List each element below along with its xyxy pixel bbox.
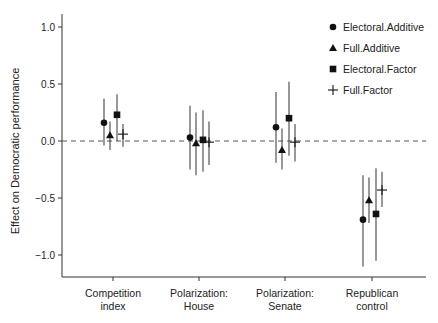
series-electoral-factor [114, 82, 380, 261]
series-full-additive [106, 113, 373, 224]
y-tick-label: −0.5 [35, 193, 55, 204]
x-tick-label: Polarization: [256, 287, 314, 299]
series-electoral-additive [101, 92, 367, 266]
circle-marker-icon [360, 216, 367, 223]
dot-whisker-chart: 1.00.50.0−0.5−1.0CompetitionindexPolariz… [0, 0, 438, 323]
y-axis-label: Effect on Democratic performance [9, 68, 21, 235]
plus-marker-icon [328, 85, 338, 95]
y-tick-label: 0.5 [41, 79, 55, 90]
square-marker-icon [286, 115, 293, 122]
triangle-marker-icon [329, 44, 337, 51]
legend-item: Electoral.Additive [330, 21, 425, 33]
legend-item: Full.Additive [329, 42, 400, 54]
circle-marker-icon [187, 134, 194, 141]
series-full-factor [118, 122, 387, 207]
x-tick-label: Republican [346, 287, 399, 299]
legend: Electoral.AdditiveFull.AdditiveElectoral… [328, 21, 424, 96]
x-tick-label: index [100, 300, 126, 312]
x-tick-label: Senate [268, 300, 301, 312]
triangle-marker-icon [192, 139, 200, 146]
legend-label: Electoral.Factor [343, 63, 417, 75]
square-marker-icon [373, 211, 380, 218]
legend-item: Electoral.Factor [330, 63, 417, 75]
legend-label: Full.Additive [343, 42, 400, 54]
x-tick-label: control [356, 300, 388, 312]
triangle-marker-icon [365, 196, 373, 203]
y-tick-label: 0.0 [41, 136, 55, 147]
square-marker-icon [330, 66, 337, 73]
legend-item: Full.Factor [328, 84, 393, 96]
x-tick-label: Polarization: [170, 287, 228, 299]
circle-marker-icon [273, 124, 280, 131]
x-tick-label: House [184, 300, 215, 312]
legend-label: Electoral.Additive [343, 21, 424, 33]
triangle-marker-icon [106, 131, 114, 138]
axes: 1.00.50.0−0.5−1.0CompetitionindexPolariz… [35, 14, 426, 312]
plot-area [101, 82, 387, 267]
y-tick-label: −1.0 [35, 250, 55, 261]
legend-label: Full.Factor [343, 84, 393, 96]
circle-marker-icon [101, 119, 108, 126]
y-tick-label: 1.0 [41, 22, 55, 33]
plus-marker-icon [290, 137, 300, 147]
triangle-marker-icon [278, 146, 286, 153]
circle-marker-icon [330, 24, 337, 31]
square-marker-icon [114, 111, 121, 118]
x-tick-label: Competition [85, 287, 141, 299]
plus-marker-icon [377, 185, 387, 195]
plus-marker-icon [118, 129, 128, 139]
